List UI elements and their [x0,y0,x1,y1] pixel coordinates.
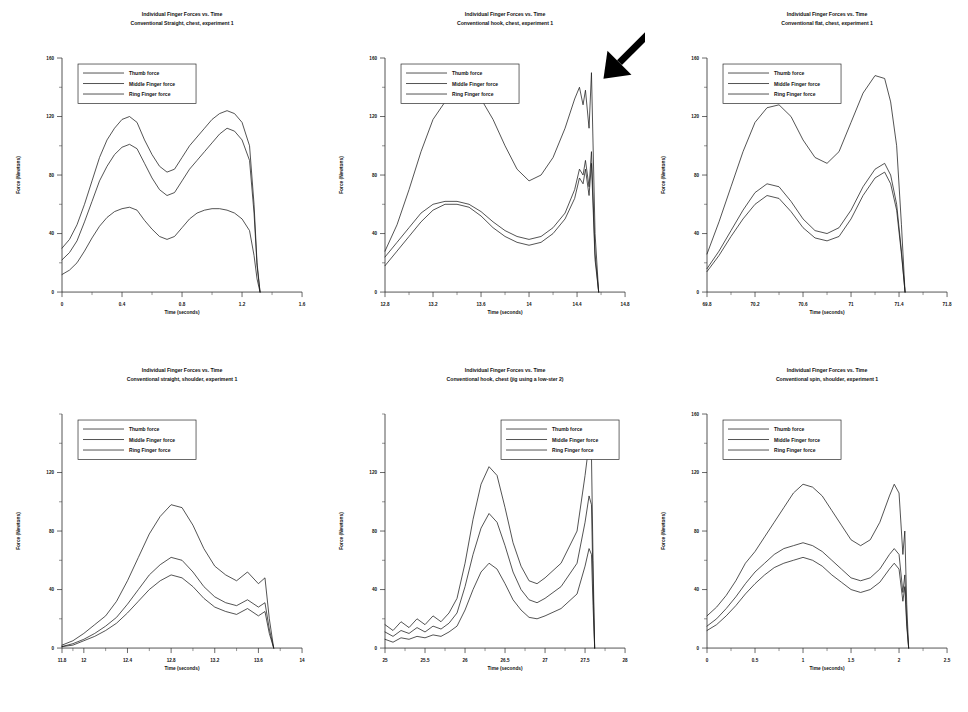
trace-line [707,484,909,648]
y-tick-label: 120 [692,471,700,476]
chart-title: Individual Finger Forces vs. Time [464,11,545,17]
trace-line [385,152,599,292]
x-tick-label: 28 [622,658,628,663]
y-tick-label: 160 [692,56,700,61]
trace-line [385,496,595,648]
x-tick-label: 1 [802,658,805,663]
y-axis-ticks: 04080120160 [46,56,62,295]
chart-title-group: Individual Finger Forces vs. TimeConvent… [782,11,874,26]
chart-legend: Thumb forceMiddle Finger forceRing Finge… [501,420,619,460]
y-tick-label: 120 [46,114,54,119]
trace-line [707,76,905,292]
chart-subtitle: Conventional straight, shoulder, experim… [127,376,238,382]
y-tick-label: 120 [46,471,54,476]
x-tick-label: 14 [526,302,532,307]
x-tick-label: 1.5 [848,658,855,663]
legend-label: Ring Finger force [552,447,594,453]
x-tick-label: 0.5 [752,658,759,663]
x-tick-label: 70.6 [799,302,808,307]
y-axis-label: Force (Newtons) [661,512,666,550]
y-tick-label: 40 [694,231,700,236]
trace-line [385,163,599,292]
legend-label: Ring Finger force [774,91,816,97]
chart-legend: Thumb forceMiddle Finger forceRing Finge… [78,420,196,460]
legend-label: Middle Finger force [774,437,820,443]
x-tick-label: 13.6 [254,658,263,663]
trace-line [62,207,260,292]
y-tick-label: 120 [369,471,377,476]
x-tick-label: 11.8 [58,658,67,663]
chart-title: Individual Finger Forces vs. Time [787,11,868,17]
legend-label: Middle Finger force [452,81,498,87]
y-axis-label: Force (Newtons) [661,156,666,194]
x-axis-ticks: 2525.52626.52727.528 [382,648,628,663]
x-axis-ticks: 12.813.213.61414.414.8 [380,292,629,307]
x-tick-label: 27 [542,658,548,663]
chart-svg: Individual Finger Forces vs. TimeConvent… [0,356,323,712]
y-tick-label: 0 [374,646,377,651]
x-tick-label: 26 [462,658,468,663]
data-traces [385,73,599,292]
chart-panel-1: Individual Finger Forces vs. TimeConvent… [0,0,323,356]
chart-title: Individual Finger Forces vs. Time [142,11,223,17]
trace-line [385,443,595,648]
y-tick-label: 40 [49,231,55,236]
y-tick-label: 80 [694,529,700,534]
chart-svg: Individual Finger Forces vs. TimeConvent… [0,0,323,356]
x-tick-label: 27.5 [580,658,589,663]
x-tick-label: 1.6 [299,302,306,307]
y-tick-label: 80 [49,173,55,178]
y-axis-label: Force (Newtons) [16,156,21,194]
chart-svg: Individual Finger Forces vs. TimeConvent… [323,356,646,712]
x-axis-label: Time (seconds) [487,666,523,671]
y-axis-label: Force (Newtons) [339,512,344,550]
y-tick-label: 40 [372,231,378,236]
x-axis-label: Time (seconds) [810,310,846,315]
x-tick-label: 25.5 [420,658,429,663]
x-tick-label: 0 [61,302,64,307]
y-tick-label: 0 [51,646,54,651]
trace-line [707,172,905,292]
x-tick-label: 14.4 [572,302,581,307]
chart-panel-2: Individual Finger Forces vs. TimeConvent… [323,0,646,356]
chart-panel-4: Individual Finger Forces vs. TimeConvent… [0,356,323,712]
y-axis-label: Force (Newtons) [339,156,344,194]
chart-title-group: Individual Finger Forces vs. TimeConvent… [446,367,563,382]
chart-legend: Thumb forceMiddle Finger forceRing Finge… [723,64,841,104]
x-axis-ticks: 00.511.522.5 [706,648,951,663]
x-axis-ticks: 00.40.81.21.6 [61,292,306,307]
chart-panel-5: Individual Finger Forces vs. TimeConvent… [323,356,646,712]
trace-line [707,557,909,648]
legend-label: Middle Finger force [129,437,175,443]
chart-panel-3: Individual Finger Forces vs. TimeConvent… [645,0,968,356]
x-tick-label: 0.8 [179,302,186,307]
legend-label: Thumb force [129,426,159,432]
y-tick-label: 80 [372,173,378,178]
data-traces [62,505,274,648]
x-tick-label: 14.8 [620,302,629,307]
chart-subtitle: Conventional Straight, chest, experiment… [130,20,233,26]
legend-label: Thumb force [129,70,159,76]
x-tick-label: 1.2 [239,302,246,307]
y-tick-label: 40 [372,588,378,593]
chart-title-group: Individual Finger Forces vs. TimeConvent… [457,11,553,26]
chart-title: Individual Finger Forces vs. Time [787,367,868,373]
trace-line [385,549,595,648]
y-axis-ticks: 04080120 [46,414,62,651]
data-traces [385,443,595,648]
x-axis-ticks: 11.81212.412.813.213.614 [58,648,305,663]
x-axis-ticks: 69.870.270.67171.471.8 [703,292,952,307]
arrow-shaft [619,29,645,63]
x-axis-label: Time (seconds) [810,666,846,671]
x-tick-label: 12.8 [380,302,389,307]
legend-label: Middle Finger force [774,81,820,87]
data-traces [62,111,260,292]
legend-label: Thumb force [774,426,804,432]
trace-line [385,73,599,292]
trace-line [62,557,274,648]
chart-legend: Thumb forceMiddle Finger forceRing Finge… [723,420,841,460]
y-tick-label: 160 [369,56,377,61]
x-tick-label: 12.8 [167,658,176,663]
x-tick-label: 13.6 [476,302,485,307]
data-traces [707,76,905,292]
